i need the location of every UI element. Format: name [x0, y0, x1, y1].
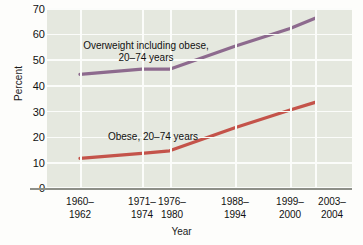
- x-tick-top: 1960–: [52, 196, 108, 209]
- y-tick-label-30: 30: [19, 107, 45, 118]
- gridline-horizontal: [47, 34, 352, 36]
- x-tick-top: 1976–: [144, 196, 200, 209]
- x-tick-label-2003-2004: 2003– 2004: [304, 196, 360, 221]
- gridline-vertical: [235, 8, 237, 188]
- gridline-vertical: [290, 8, 292, 188]
- annotation-obese: Obese, 20–74 years: [78, 131, 228, 143]
- x-axis-line: [30, 188, 352, 190]
- annotation-overweight: Overweight including obese, 20–74 years: [58, 40, 234, 64]
- plot-area: [47, 8, 352, 188]
- y-tick-label-50: 50: [19, 55, 45, 66]
- gridline-vertical: [142, 8, 144, 188]
- gridline-horizontal: [47, 85, 352, 87]
- y-tick-label-20: 20: [19, 132, 45, 143]
- x-tick-top: 1988–: [207, 196, 263, 209]
- gridline-horizontal: [47, 8, 352, 10]
- x-tick-top: 2003–: [304, 196, 360, 209]
- y-tick-label-60: 60: [19, 29, 45, 40]
- x-tick-bottom: 2004: [304, 209, 360, 222]
- x-tick-bottom: 1962: [52, 209, 108, 222]
- x-tick-bottom: 1994: [207, 209, 263, 222]
- y-tick-label-40: 40: [19, 81, 45, 92]
- x-tick-label-1960-1962: 1960– 1962: [52, 196, 108, 221]
- x-tick-label-1976-1980: 1976– 1980: [144, 196, 200, 221]
- x-tick-label-1988-1994: 1988– 1994: [207, 196, 263, 221]
- y-tick-label-10: 10: [19, 158, 45, 169]
- gridline-vertical: [80, 8, 82, 188]
- gridline-vertical: [170, 8, 172, 188]
- obesity-trend-chart: Percent 70 60 50 40 30 20 10 0 1960– 196: [0, 0, 363, 245]
- x-tick-bottom: 1980: [144, 209, 200, 222]
- gridline-vertical: [315, 8, 317, 188]
- gridline-horizontal: [47, 111, 352, 113]
- gridline-horizontal: [47, 162, 352, 164]
- x-axis-title: Year: [0, 226, 363, 237]
- y-tick-label-70: 70: [19, 4, 45, 15]
